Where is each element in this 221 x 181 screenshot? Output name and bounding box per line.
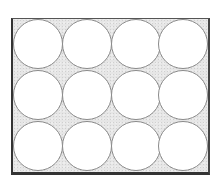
circle-r0-c0: [13, 19, 63, 69]
circle-r2-c3: [158, 121, 208, 171]
circle-r1-c1: [62, 70, 112, 120]
circle-r1-c0: [13, 70, 63, 120]
circle-r2-c2: [111, 121, 161, 171]
circle-r0-c3: [158, 19, 208, 69]
circle-r1-c3: [158, 70, 208, 120]
circle-r0-c2: [111, 19, 161, 69]
circle-r1-c2: [111, 70, 161, 120]
circle-r2-c0: [13, 121, 63, 171]
circle-r2-c1: [62, 121, 112, 171]
circle-r0-c1: [62, 19, 112, 69]
